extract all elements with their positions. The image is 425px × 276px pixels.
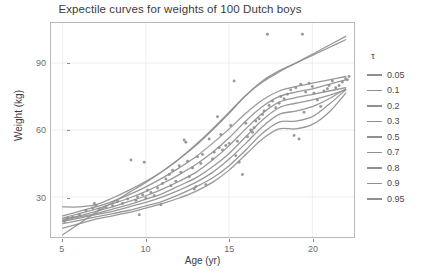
legend-item[interactable]: 0.8 (365, 160, 423, 176)
plot-panel (50, 22, 355, 238)
scatter-point (241, 173, 244, 176)
scatter-point (236, 140, 239, 143)
legend-item-label: 0.3 (387, 116, 400, 126)
x-tick-mark (313, 239, 314, 242)
legend-line-swatch-icon (367, 116, 382, 127)
scatter-point (326, 87, 329, 90)
legend-items: 0.050.10.20.30.50.70.80.90.95 (365, 67, 423, 207)
scatter-point (224, 144, 227, 147)
y-tick-label: 90 (22, 58, 46, 68)
legend-item-label: 0.9 (387, 178, 400, 188)
expectile-curves (63, 36, 346, 234)
scatter-point (311, 85, 314, 88)
scatter-point (143, 161, 146, 164)
x-tick-label: 20 (308, 244, 318, 254)
legend-title: τ (371, 50, 423, 61)
x-tick-label: 10 (141, 244, 151, 254)
legend-item-label: 0.8 (387, 163, 400, 173)
chart-title: Expectile curves for weights of 100 Dutc… (0, 3, 360, 15)
y-axis-label: Weight (kg) (13, 61, 24, 171)
scatter-point (138, 213, 141, 216)
legend-item[interactable]: 0.3 (365, 114, 423, 130)
legend-item[interactable]: 0.7 (365, 145, 423, 161)
x-tick-mark (229, 239, 230, 242)
scatter-point (164, 178, 167, 181)
expectile-curve-0.95 (63, 36, 346, 234)
scatter-point (268, 104, 271, 107)
scatter-point (334, 86, 337, 89)
legend-line-swatch-icon (367, 100, 382, 111)
legend-item-label: 0.2 (387, 101, 400, 111)
legend-item[interactable]: 0.2 (365, 98, 423, 114)
legend-line-swatch-icon (367, 178, 382, 189)
scatter-point (348, 75, 351, 78)
legend-item-label: 0.05 (387, 70, 405, 80)
scatter-point (184, 141, 187, 144)
legend-item-label: 0.95 (387, 194, 405, 204)
legend-item-label: 0.5 (387, 132, 400, 142)
scatter-point (304, 91, 307, 94)
x-tick-mark (146, 239, 147, 242)
expectile-curve-0.8 (63, 77, 346, 216)
legend-line-swatch-icon (367, 147, 382, 158)
plot-area (51, 23, 354, 237)
scatter-point (293, 134, 296, 137)
y-tick-mark (67, 63, 70, 64)
y-tick-mark (67, 130, 70, 131)
scatter-point (298, 137, 301, 140)
scatter-point (319, 105, 322, 108)
legend-line-swatch-icon (367, 193, 382, 204)
x-tick-mark (62, 239, 63, 242)
legend-line-swatch-icon (367, 131, 382, 142)
scatter-point (303, 111, 306, 114)
legend-line-swatch-icon (367, 85, 382, 96)
scatter-point (201, 153, 204, 156)
y-tick-label: 60 (22, 125, 46, 135)
y-tick-label: 30 (22, 193, 46, 203)
scatter-point (301, 33, 304, 36)
legend-line-swatch-icon (367, 162, 382, 173)
legend-item[interactable]: 0.9 (365, 176, 423, 192)
scatter-point (266, 33, 269, 36)
legend-item[interactable]: 0.95 (365, 191, 423, 207)
scatter-point (208, 137, 211, 140)
scatter-point (216, 115, 219, 118)
scatter-point (338, 84, 341, 87)
legend: τ 0.050.10.20.30.50.70.80.90.95 (365, 50, 423, 207)
y-tick-mark (67, 198, 70, 199)
x-tick-label: 5 (59, 244, 64, 254)
legend-item[interactable]: 0.05 (365, 67, 423, 83)
expectile-curve-0.5 (63, 88, 346, 220)
x-tick-label: 15 (224, 244, 234, 254)
legend-line-swatch-icon (367, 69, 382, 80)
scatter-points (63, 33, 351, 223)
legend-item[interactable]: 0.1 (365, 83, 423, 99)
scatter-point (129, 159, 132, 162)
scatter-point (233, 79, 236, 82)
legend-item-label: 0.1 (387, 85, 400, 95)
chart-root: Expectile curves for weights of 100 Dutc… (0, 0, 425, 276)
scatter-point (289, 88, 292, 91)
legend-item[interactable]: 0.5 (365, 129, 423, 145)
x-axis-label: Age (yr) (50, 255, 355, 266)
y-axis-ticks: 306090 (20, 22, 46, 238)
expectile-curve-0.7 (63, 80, 346, 218)
legend-item-label: 0.7 (387, 147, 400, 157)
